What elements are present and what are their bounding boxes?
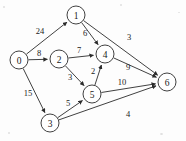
graph-node-1[interactable]: 1 — [67, 6, 85, 24]
graph-node-0[interactable]: 0 — [10, 51, 28, 69]
edge-weight-0-1: 24 — [36, 26, 45, 36]
edge-weight-5-6: 10 — [118, 77, 127, 87]
edge-weight-0-2: 8 — [37, 48, 41, 58]
edge-weight-5-4: 2 — [91, 66, 95, 76]
graph-node-6[interactable]: 6 — [158, 73, 176, 91]
scan-speck — [8, 132, 10, 134]
edge-weight-0-3: 15 — [24, 88, 33, 98]
scan-speck — [3, 6, 5, 8]
scan-speck — [120, 4, 122, 6]
edge-weight-1-6: 3 — [127, 32, 131, 42]
edge-weight-3-6: 4 — [126, 109, 131, 119]
graph-node-5[interactable]: 5 — [83, 85, 101, 103]
edge-weight-2-4: 7 — [77, 45, 81, 55]
node-label-6: 6 — [165, 78, 170, 88]
edge-weight-3-5: 5 — [66, 98, 70, 108]
node-label-4: 4 — [103, 50, 108, 60]
node-label-2: 2 — [57, 55, 62, 65]
graph-canvas: 0123456 248156373291054 — [0, 0, 186, 141]
scan-speck — [160, 133, 163, 135]
graph-edge-3-5 — [58, 101, 83, 118]
edge-weights-layer: 248156373291054 — [24, 26, 131, 119]
scan-speck — [178, 12, 180, 13]
graph-edge-0-1 — [26, 22, 66, 54]
graph-node-2[interactable]: 2 — [50, 50, 68, 68]
graph-node-3[interactable]: 3 — [41, 114, 59, 132]
node-label-1: 1 — [74, 11, 79, 21]
edge-weight-2-5: 3 — [68, 72, 72, 82]
graph-edge-3-6 — [59, 86, 156, 120]
node-label-3: 3 — [48, 119, 53, 129]
graph-figure: 0123456 248156373291054 — [0, 0, 186, 141]
graph-edge-4-6 — [114, 58, 157, 77]
edge-weight-1-4: 6 — [83, 28, 87, 38]
graph-node-4[interactable]: 4 — [96, 45, 114, 63]
graph-edge-2-4 — [68, 55, 93, 58]
graph-edge-5-4 — [95, 65, 101, 85]
node-label-5: 5 — [90, 90, 95, 100]
node-label-0: 0 — [17, 56, 22, 66]
edge-weight-4-6: 9 — [126, 62, 130, 72]
graph-edge-5-6 — [101, 84, 155, 93]
